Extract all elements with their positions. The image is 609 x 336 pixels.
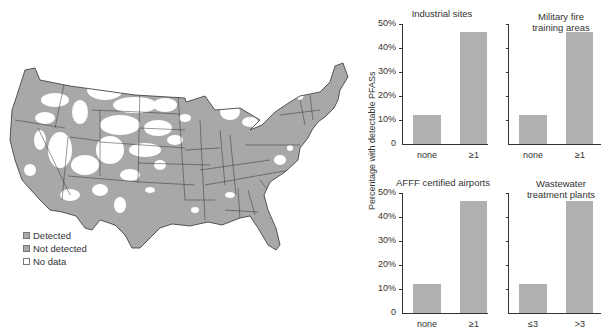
tick (399, 241, 402, 242)
tick (399, 96, 402, 97)
tick (399, 265, 402, 266)
legend-label: Not detected (33, 243, 87, 254)
title-line: training areas (506, 22, 609, 33)
tick (399, 48, 402, 49)
tick (506, 241, 509, 242)
tick (506, 217, 509, 218)
y-axis (508, 193, 509, 314)
title-line: Wastewater (506, 178, 609, 189)
bar-none (413, 115, 441, 144)
tick-label: 50% (370, 187, 396, 197)
x-label: ≤3 (518, 319, 548, 329)
swatch-no-data (23, 258, 30, 265)
x-label: ≥1 (459, 319, 489, 329)
tick-label: 20% (370, 259, 396, 269)
tick-label: 30% (370, 235, 396, 245)
legend-item-no-data: No data (23, 255, 87, 268)
tick (506, 289, 509, 290)
tick-label: 0 (370, 307, 396, 317)
x-axis (402, 313, 488, 314)
chart-title: Industrial sites (400, 8, 484, 19)
x-label: ≥1 (565, 150, 595, 160)
tick (399, 24, 402, 25)
x-label: none (412, 319, 442, 329)
tick-label: 20% (370, 90, 396, 100)
x-label: >3 (565, 319, 595, 329)
bar-gt3 (566, 201, 593, 313)
title-line: Military fire (506, 11, 609, 22)
tick (399, 72, 402, 73)
y-axis (402, 193, 403, 314)
y-axis (402, 24, 403, 145)
tick (506, 120, 509, 121)
map-legend: Detected Not detected No data (23, 229, 87, 268)
x-label: none (412, 150, 442, 160)
tick-label: 30% (370, 66, 396, 76)
tick-label: 50% (370, 18, 396, 28)
tick (399, 193, 402, 194)
tick-label: 10% (370, 283, 396, 293)
tick (399, 217, 402, 218)
bar-ge1 (566, 32, 593, 144)
swatch-detected (23, 232, 30, 239)
legend-label: Detected (33, 230, 71, 241)
tick (399, 289, 402, 290)
bar-none (519, 115, 547, 144)
us-pfas-map (0, 0, 360, 336)
tick-label: 0 (370, 138, 396, 148)
bar-none (413, 284, 441, 313)
tick (506, 72, 509, 73)
tick (506, 96, 509, 97)
y-axis (508, 24, 509, 145)
x-axis (508, 313, 601, 314)
bar-le3 (519, 284, 547, 313)
tick (506, 24, 509, 25)
swatch-not-detected (23, 245, 30, 252)
legend-item-detected: Detected (23, 229, 87, 242)
legend-label: No data (33, 256, 66, 267)
tick-label: 40% (370, 42, 396, 52)
tick (506, 193, 509, 194)
tick-label: 40% (370, 211, 396, 221)
tick-label: 10% (370, 114, 396, 124)
x-axis (508, 144, 601, 145)
title-line: treatment plants (506, 189, 609, 200)
bar-ge1 (460, 32, 487, 144)
tick (506, 265, 509, 266)
chart-title: AFFF certified airports (396, 177, 506, 188)
chart-title: Military fire training areas (506, 11, 609, 33)
tick (399, 120, 402, 121)
legend-item-not-detected: Not detected (23, 242, 87, 255)
chart-title: Wastewater treatment plants (506, 178, 609, 200)
x-label: ≥1 (459, 150, 489, 160)
bar-ge1 (460, 201, 487, 313)
tick (506, 48, 509, 49)
x-axis (402, 144, 488, 145)
x-label: none (518, 150, 548, 160)
